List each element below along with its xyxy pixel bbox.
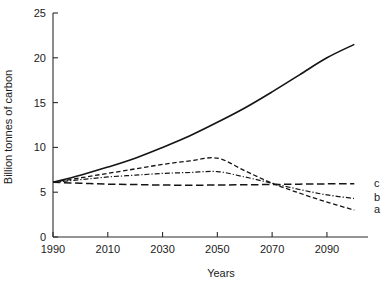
line-chart: 0510152025 199020102030205020702090 abc … xyxy=(0,0,392,287)
y-tick-label: 10 xyxy=(34,141,46,153)
y-tick-label: 5 xyxy=(40,186,46,198)
series-line-c xyxy=(53,182,354,185)
chart-figure: 0510152025 199020102030205020702090 abc … xyxy=(0,0,392,287)
series-group xyxy=(53,44,354,210)
y-tick-label: 15 xyxy=(34,97,46,109)
x-tick-label: 1990 xyxy=(41,243,65,255)
series-labels: abc xyxy=(374,177,381,215)
y-axis-ticks: 0510152025 xyxy=(34,7,58,243)
series-line-reference xyxy=(53,44,354,182)
x-tick-label: 2090 xyxy=(315,243,339,255)
y-axis-title: Billion tonnes of carbon xyxy=(2,70,14,184)
x-tick-label: 2070 xyxy=(260,243,284,255)
series-label-c: c xyxy=(374,177,380,189)
y-tick-label: 20 xyxy=(34,52,46,64)
x-tick-label: 2050 xyxy=(205,243,229,255)
series-label-a: a xyxy=(374,203,381,215)
y-tick-label: 0 xyxy=(40,231,46,243)
x-axis-title: Years xyxy=(207,267,235,279)
x-tick-label: 2010 xyxy=(96,243,120,255)
series-label-b: b xyxy=(374,191,380,203)
x-tick-label: 2030 xyxy=(150,243,174,255)
y-tick-label: 25 xyxy=(34,7,46,19)
x-axis-ticks: 199020102030205020702090 xyxy=(41,232,339,255)
